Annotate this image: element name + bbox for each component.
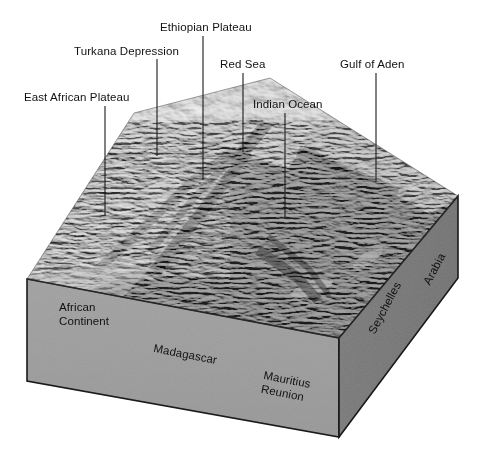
callout-label-east-african-plateau: East African Plateau [24,91,130,104]
callout-label-turkana-depression: Turkana Depression [74,45,179,58]
callout-label-gulf-of-aden: Gulf of Aden [340,58,405,71]
callout-label-indian-ocean: Indian Ocean [253,98,323,111]
face-label-african-continent: African Continent [59,301,109,328]
callout-label-ethiopian-plateau: Ethiopian Plateau [160,21,252,34]
block-diagram-figure: East African PlateauTurkana DepressionEt… [0,0,482,458]
callout-label-red-sea: Red Sea [220,58,265,71]
